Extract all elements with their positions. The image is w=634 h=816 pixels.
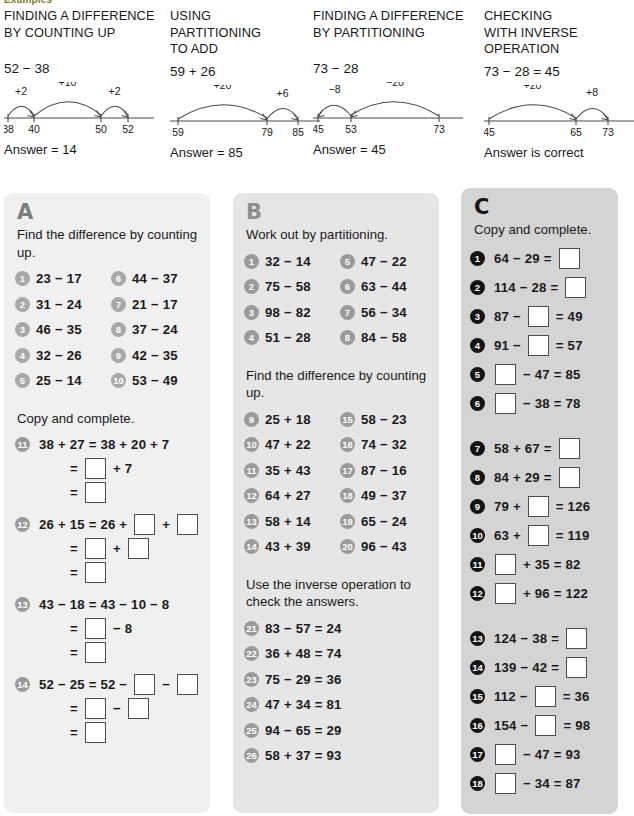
question-item[interactable]: 387 −= 49 [470,302,618,331]
question-text: + [162,517,170,532]
question-item[interactable]: 525 − 14 [15,373,111,388]
answer-box[interactable] [528,525,549,546]
answer-box[interactable] [177,514,198,535]
question-item[interactable]: 1443 + 39 [244,539,340,554]
answer-box[interactable] [128,538,149,559]
question-item[interactable]: 132 − 14 [244,254,340,269]
question-item[interactable]: 164 − 29 = [470,244,618,273]
jump-label: +20 [214,85,232,91]
answer-box[interactable] [535,686,556,707]
question-item[interactable]: 942 − 35 [111,348,178,363]
question-item[interactable]: 2658 + 37 = 93 [244,748,341,763]
question-text: 32 − 14 [265,254,311,269]
question-item[interactable]: 2594 − 65 = 29 [244,723,341,738]
answer-box[interactable] [134,514,155,535]
question-item[interactable]: 644 − 37 [111,271,178,286]
question-item[interactable]: 18− 34 = 87 [470,769,618,798]
answer-box[interactable] [85,618,106,639]
question-item[interactable]: 231 − 24 [15,297,111,312]
question-number-badge: 7 [470,441,485,456]
answer-box[interactable] [495,364,516,385]
question-item[interactable]: 6− 38 = 78 [470,389,618,418]
answer-box[interactable] [559,248,580,269]
question-item[interactable]: 2236 + 48 = 74 [244,646,341,661]
question-item[interactable]: 275 − 58 [244,279,340,294]
question-item[interactable]: 1674 − 32 [340,437,407,452]
answer-box[interactable] [528,496,549,517]
question-item[interactable]: 547 − 22 [340,254,407,269]
question-item[interactable]: 17− 47 = 93 [470,740,618,769]
answer-box[interactable] [535,715,556,736]
question-item[interactable]: 1849 − 37 [340,488,407,503]
question-row: 1358 + 141965 − 24 [244,509,439,535]
question-number-badge: 5 [15,373,30,388]
question-item[interactable]: 398 − 82 [244,305,340,320]
answer-box[interactable] [134,674,155,695]
answer-box[interactable] [85,642,106,663]
answer-box[interactable] [566,657,587,678]
answer-box[interactable] [559,438,580,459]
question-item[interactable]: 15112 −= 36 [470,682,618,711]
question-item[interactable]: 346 − 35 [15,322,111,337]
question-item[interactable]: 1787 − 16 [340,463,407,478]
question-item[interactable]: 432 − 26 [15,348,111,363]
question-item[interactable]: 1053 − 49 [111,373,178,388]
question-item[interactable]: 721 − 17 [111,297,178,312]
answer-box[interactable] [566,628,587,649]
answer-box[interactable] [85,482,106,503]
question-item[interactable]: 663 − 44 [340,279,407,294]
question-item[interactable]: 2375 − 29 = 36 [244,672,341,687]
question-item[interactable]: 1965 − 24 [340,514,407,529]
question-item[interactable]: 1558 − 23 [340,412,407,427]
question-item[interactable]: 1358 + 14 [244,514,340,529]
question-item[interactable]: 2096 − 43 [340,539,407,554]
question-item[interactable]: 2447 + 34 = 81 [244,697,341,712]
question-number-badge: 1 [15,271,30,286]
answer-box[interactable] [85,722,106,743]
answer-box[interactable] [85,538,106,559]
question-item[interactable]: 491 −= 57 [470,331,618,360]
question-item[interactable]: 12+ 96 = 122 [470,579,618,608]
question-item[interactable]: 2114 − 28 = [470,273,618,302]
jump-arc [34,102,101,116]
answer-box[interactable] [495,554,516,575]
answer-box[interactable] [495,583,516,604]
panel-a-instruction-1: Find the difference by counting up. [17,226,210,261]
question-item[interactable]: 451 − 28 [244,330,340,345]
answer-box[interactable] [85,698,106,719]
question-item[interactable]: 925 + 18 [244,412,340,427]
question-item[interactable]: 5− 47 = 85 [470,360,618,389]
answer-box[interactable] [559,467,580,488]
question-item[interactable]: 884 − 58 [340,330,407,345]
question-item[interactable]: 1135 + 43 [244,463,340,478]
question-item[interactable]: 2183 − 57 = 24 [244,621,341,636]
worked-example: FINDING A DIFFERENCE BY PARTITIONING73 −… [313,8,481,157]
question-item[interactable]: 979 += 126 [470,492,618,521]
question-text: 114 − 28 = [494,280,558,295]
answer-box[interactable] [177,674,198,695]
answer-box[interactable] [528,335,549,356]
copy-complete-line: =+ [15,536,210,560]
question-text: 58 + 67 = [494,441,552,456]
question-text: 83 − 57 = 24 [265,621,341,636]
question-item[interactable]: 14139 − 42 = [470,653,618,682]
question-item[interactable]: 1047 + 22 [244,437,340,452]
answer-box[interactable] [528,306,549,327]
question-item[interactable]: 123 − 17 [15,271,111,286]
question-item[interactable]: 1264 + 27 [244,488,340,503]
question-item[interactable]: 758 + 67 = [470,434,618,463]
question-item[interactable]: 756 − 34 [340,305,407,320]
answer-box[interactable] [85,458,106,479]
answer-box[interactable] [85,562,106,583]
answer-box[interactable] [495,773,516,794]
answer-box[interactable] [128,698,149,719]
question-item[interactable]: 16154 −= 98 [470,711,618,740]
question-item[interactable]: 11+ 35 = 82 [470,550,618,579]
answer-box[interactable] [495,744,516,765]
question-item[interactable]: 884 + 29 = [470,463,618,492]
question-item[interactable]: 837 − 24 [111,322,178,337]
question-item[interactable]: 1063 += 119 [470,521,618,550]
answer-box[interactable] [565,277,586,298]
question-item[interactable]: 13124 − 38 = [470,624,618,653]
answer-box[interactable] [495,393,516,414]
